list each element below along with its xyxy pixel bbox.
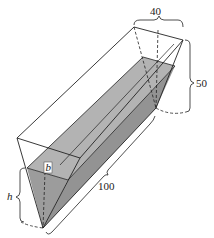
trough-diagram: 40 50 100 b h [0,0,214,238]
label-length: 100 [98,180,115,192]
label-depth: 50 [196,77,208,89]
label-top-width: 40 [150,5,162,17]
label-water-width: b [46,161,52,173]
label-water-height: h [7,190,13,202]
